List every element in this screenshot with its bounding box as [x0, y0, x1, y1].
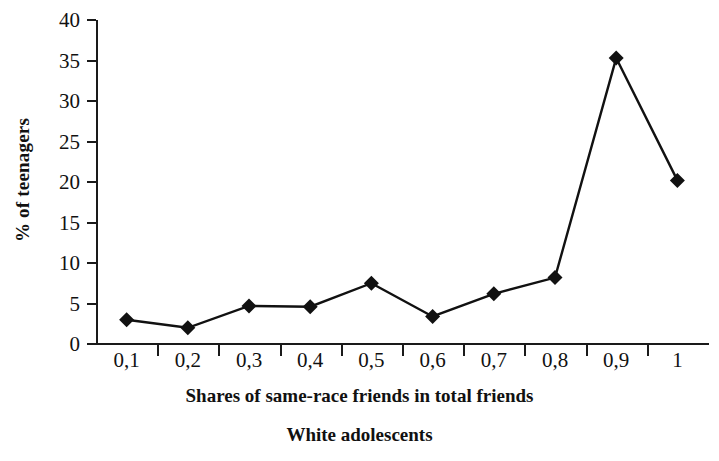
- y-tick-mark: [87, 343, 96, 345]
- x-tick-label: 0,2: [175, 350, 201, 371]
- y-tick-label: 30: [59, 91, 80, 112]
- chart-caption: White adolescents: [0, 424, 719, 446]
- series-line: [127, 58, 678, 328]
- y-tick-mark: [87, 60, 96, 62]
- data-point-marker: [548, 270, 563, 285]
- x-tick-label: 0,6: [419, 350, 445, 371]
- y-tick-mark: [87, 141, 96, 143]
- x-tick-label: 0,3: [236, 350, 262, 371]
- y-tick-label: 0: [70, 334, 81, 355]
- data-point-marker: [242, 298, 257, 313]
- data-point-marker: [670, 173, 685, 188]
- y-tick-label: 20: [59, 172, 80, 193]
- x-tick-label: 0,1: [113, 350, 139, 371]
- data-point-marker: [180, 320, 195, 335]
- y-tick-mark: [87, 181, 96, 183]
- y-axis-title: % of teenagers: [0, 0, 46, 360]
- y-tick-label: 25: [59, 131, 80, 152]
- x-axis-title: Shares of same-race friends in total fri…: [0, 385, 719, 407]
- x-axis-tick-labels: 0,10,20,30,40,50,60,70,80,91: [96, 350, 708, 380]
- y-tick-mark: [87, 262, 96, 264]
- y-tick-label: 5: [70, 293, 81, 314]
- y-tick-mark: [87, 19, 96, 21]
- x-tick-label: 0,9: [603, 350, 629, 371]
- data-point-marker: [486, 286, 501, 301]
- data-point-marker: [364, 276, 379, 291]
- x-tick-label: 0,7: [481, 350, 507, 371]
- x-tick-label: 0,8: [542, 350, 568, 371]
- x-tick-label: 1: [672, 350, 683, 371]
- data-point-marker: [119, 312, 134, 327]
- data-point-marker: [425, 309, 440, 324]
- y-tick-label: 35: [59, 50, 80, 71]
- data-point-marker: [609, 51, 624, 66]
- plot-area: [96, 20, 708, 344]
- data-point-marker: [303, 299, 318, 314]
- y-tick-mark: [87, 222, 96, 224]
- y-tick-label: 10: [59, 253, 80, 274]
- chart-figure: % of teenagers 0510152025303540 0,10,20,…: [0, 0, 719, 461]
- x-tick-label: 0,4: [297, 350, 323, 371]
- y-tick-mark: [87, 100, 96, 102]
- x-tick-label: 0,5: [358, 350, 384, 371]
- y-tick-label: 40: [59, 10, 80, 31]
- y-axis-title-text: % of teenagers: [12, 118, 34, 242]
- y-tick-label: 15: [59, 212, 80, 233]
- data-series: [96, 20, 708, 344]
- y-axis-tick-labels: 0510152025303540: [44, 20, 88, 344]
- y-tick-mark: [87, 303, 96, 305]
